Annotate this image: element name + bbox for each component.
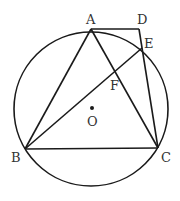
geometry-diagram: A D E F O B C — [0, 0, 180, 201]
label-f: F — [110, 78, 119, 93]
segment-bc — [25, 148, 158, 149]
label-o: O — [87, 114, 98, 129]
label-a: A — [85, 12, 96, 27]
center-point-o — [90, 106, 94, 110]
label-e: E — [144, 36, 154, 51]
diagram-svg: A D E F O B C — [0, 0, 180, 201]
label-b: B — [11, 150, 21, 165]
label-c: C — [161, 150, 171, 165]
segment-be — [25, 48, 142, 149]
segment-ab — [25, 29, 91, 149]
label-d: D — [137, 12, 147, 27]
